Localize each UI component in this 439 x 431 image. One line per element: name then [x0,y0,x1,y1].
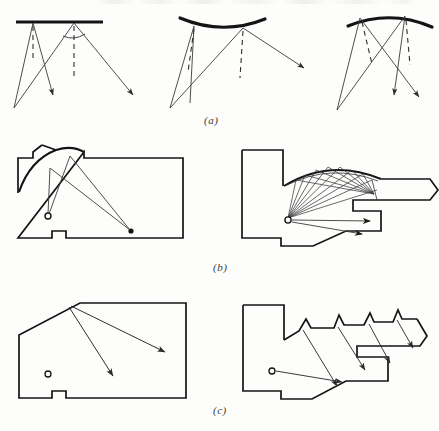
subpanel-c1-flat-ceiling-room [19,303,186,398]
sound-source-marker [285,217,291,223]
direct-ray-lower [292,222,362,234]
hall-left-wall-top [243,305,284,340]
panel-label-b: (b) [213,261,227,273]
sound-source-marker [45,371,51,377]
focal-point-marker [128,228,133,233]
panel-label-a: (a) [204,114,218,126]
room-outline [18,145,183,238]
reflected-ray-short [69,307,113,376]
hall-outline [242,150,438,246]
reflected-ray-2 [243,28,304,68]
panel-c [19,303,427,399]
diffuse-ray-1 [303,330,337,386]
reflected-ray-2 [394,16,405,95]
subpanel-a2-concave-reflector [170,18,304,108]
incident-ray-1 [337,18,360,110]
panel-a [14,16,432,110]
ceiling-dome-arc [19,148,84,192]
subpanel-a3-convex-reflector [337,16,432,110]
incident-ray-2 [170,28,243,108]
subpanel-a1-flat-reflector [14,22,133,108]
sound-source-marker [269,368,275,374]
incident-ray-1 [48,168,50,214]
reflected-ray-1 [360,18,419,97]
normal-line-left [362,22,372,64]
reflector-surface-concave [180,18,265,27]
diffuse-ray-4 [397,320,413,348]
hall-left-wall-top [242,150,283,186]
incident-ray-2 [14,23,74,108]
fan-incident-ray [288,190,377,218]
normal-line-right [240,31,243,78]
subpanel-b1-domed-ceiling-room [18,145,183,238]
normal-line-right [406,20,410,65]
panel-b [18,145,438,246]
incident-ray-2 [337,16,405,110]
acoustics-ray-diagram-figure: (a) (b) (c) [0,0,439,431]
reflected-ray-1 [33,23,53,95]
subpanel-b2-curved-vault-hall [242,150,438,246]
reflected-ray-long [71,306,165,352]
incident-ray-2 [49,156,70,214]
ceiling-vault-arc-outer [284,170,381,186]
diffuse-ray-2 [338,327,365,370]
hall-outline [243,305,427,399]
panel-label-c: (c) [213,404,227,416]
room-right-upper-step [42,145,56,150]
figure-canvas [0,0,439,431]
direct-ray-to-audience [276,371,342,382]
direct-ray-upper [292,220,370,221]
subpanel-c2-sawtooth-ceiling-hall [243,305,427,399]
reflected-ray-1 [50,168,130,230]
reflected-ray-2 [74,23,133,95]
reflected-ray-2 [70,156,130,230]
ceiling-sawtooth-profile [284,310,417,340]
